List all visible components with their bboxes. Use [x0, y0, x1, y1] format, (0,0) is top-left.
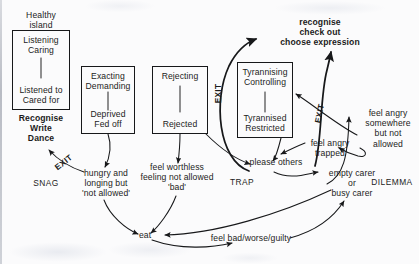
arrow-feel-bad-to-empty-carer	[290, 201, 344, 238]
box-exacting-top: Exacting Demanding	[82, 71, 134, 91]
box-rejecting-top: Rejecting	[153, 71, 207, 81]
label-feel-angry-somewhere: feel angry somewhere but not allowed	[360, 108, 416, 149]
box-tyrannising-controlling: Tyrannising Controlling Tyrannised Restr…	[237, 62, 293, 138]
box-tyrannising-bottom: Tyrannised Restricted	[238, 113, 292, 133]
label-recognise-check-out: recognise check out choose expression	[258, 17, 382, 48]
label-healthy-island: Healthy island	[11, 10, 71, 30]
box-tyrannising-top: Tyrannising Controlling	[238, 67, 292, 87]
box-exacting-demanding: Exacting Demanding Deprived Fed off	[81, 66, 135, 134]
label-eat: eat	[131, 230, 159, 240]
box-exacting-bottom: Deprived Fed off	[82, 109, 134, 129]
arrow-exacting-to-hungry	[105, 134, 110, 167]
arrow-feel-angry-trapped-to-tyrannising	[296, 94, 357, 135]
box-rejecting-bottom: Rejected	[153, 119, 207, 129]
label-please-others: please others	[245, 157, 307, 167]
diagram-canvas: Listening Caring Listened to Cared for E…	[0, 0, 419, 264]
box-rejecting: Rejecting Rejected	[152, 66, 208, 134]
label-exit-left: EXIT	[214, 84, 223, 103]
label-feel-bad-worse-guilty: feel bad/worse/guilty	[210, 233, 292, 243]
caption-trap: TRAP	[222, 177, 262, 187]
arrow-please-others-to-empty-carer	[274, 172, 318, 176]
arrow-rejecting-to-feel-worthless	[178, 134, 180, 163]
label-hungry-and-longing: hungry and longing but 'not allowed'	[74, 168, 138, 199]
label-feel-angry-trapped: feel angry trapped	[301, 138, 359, 158]
arrow-feel-worthless-to-eat	[151, 196, 176, 233]
caption-dilemma: DILEMMA	[366, 177, 418, 187]
arrow-hungry-to-eat	[104, 200, 138, 234]
arrow-empty-carer-to-eat	[165, 190, 331, 235]
box-healthy-island-bottom: Listened to Cared for	[13, 85, 69, 105]
caption-snag: SNAG	[26, 178, 66, 188]
box-healthy-island-top: Listening Caring	[13, 35, 69, 55]
label-recognise-write-dance: Recognise Write Dance	[6, 113, 76, 144]
label-feel-worthless: feel worthless feeling not allowed 'bad'	[135, 162, 219, 193]
box-healthy-island: Listening Caring Listened to Cared for	[12, 30, 70, 110]
